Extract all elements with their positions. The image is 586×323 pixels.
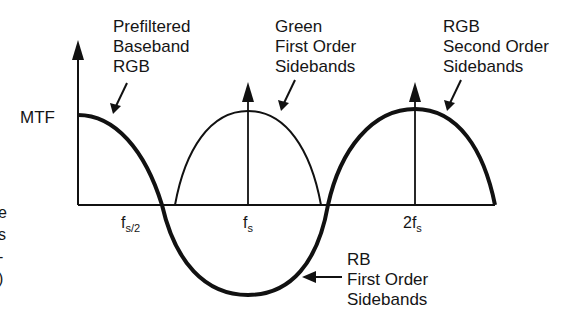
rgb-second-order-curve: [328, 109, 495, 205]
y-axis-arrow-icon: [72, 40, 84, 60]
tick-fs-half: fs/2: [121, 214, 140, 234]
fs-arrow-icon: [242, 82, 254, 102]
baseband-curve: [78, 115, 162, 205]
annotation-baseband: Prefiltered Baseband RGB: [113, 17, 190, 77]
annotation-rb-first-order: RB First Order Sidebands: [347, 250, 428, 310]
left-edge-fragments: e s - ): [0, 202, 7, 290]
2fs-arrow-icon: [409, 82, 421, 102]
baseband-pointer-icon: [110, 103, 121, 114]
y-axis-label: MTF: [20, 108, 55, 128]
annotation-green-first-order: Green First Order Sidebands: [275, 17, 356, 77]
rb-pointer-icon: [302, 271, 316, 283]
tick-fs: fs: [243, 214, 253, 234]
annotation-rgb-second-order: RGB Second Order Sidebands: [443, 17, 549, 77]
rgb-second-pointer-icon: [444, 100, 455, 111]
green-pointer-icon: [278, 100, 289, 111]
tick-2fs: 2fs: [403, 214, 422, 234]
